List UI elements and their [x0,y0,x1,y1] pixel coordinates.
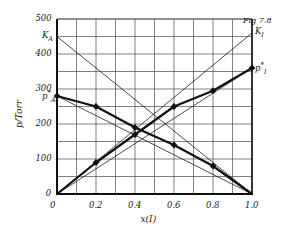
annotation-p-i: p*I [255,61,267,76]
y-tick-label: 500 [35,13,51,23]
figure-container: p/Torr x(I) 00.20.40.60.81.0 01002003004… [0,0,301,237]
annotation-k-i: KI [255,26,264,39]
y-tick-label: 0 [46,188,51,198]
y-axis-label: p/Torr [14,100,24,128]
annotation-k-a: KA [42,30,53,43]
x-tick-label: 0.8 [206,200,220,210]
y-tick-label: 200 [35,118,51,128]
x-tick-label: 1.0 [245,200,259,210]
figure-caption: Fig 7.8 [243,16,272,25]
x-axis-label: x(I) [141,214,157,224]
y-tick-label: 400 [35,48,51,58]
annotation-p-a: p*A [42,89,56,104]
x-tick-label: 0.6 [167,200,181,210]
x-tick-label: 0 [50,200,55,210]
y-tick-label: 100 [35,153,51,163]
x-tick-label: 0.4 [128,200,142,210]
x-tick-label: 0.2 [89,200,103,210]
gridlines [57,19,252,194]
